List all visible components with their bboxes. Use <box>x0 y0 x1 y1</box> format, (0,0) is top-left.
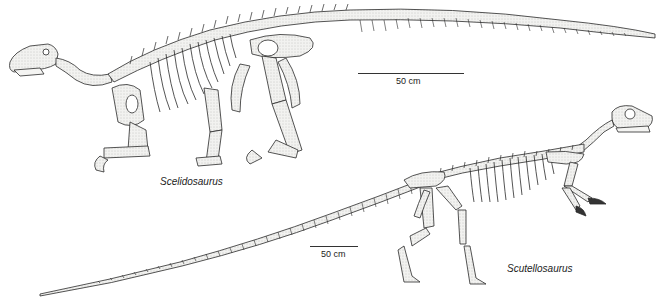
skeletal-diagram-figure: 50 cm Scelidosaurus 50 cm Scutellosaurus <box>0 0 661 300</box>
scelidosaurus-scale-bar <box>358 73 464 74</box>
scutellosaurus-scale-bar <box>310 246 358 247</box>
scelidosaurus-skeleton <box>10 4 656 172</box>
scelidosaurus-scale-label: 50 cm <box>396 76 421 86</box>
scutellosaurus-label: Scutellosaurus <box>507 263 573 274</box>
scutellosaurus-scale-label: 50 cm <box>321 249 346 259</box>
scelidosaurus-label: Scelidosaurus <box>160 176 223 187</box>
